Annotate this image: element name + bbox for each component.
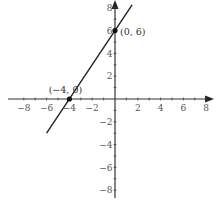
- x-tick-label: −8: [17, 103, 31, 113]
- point-marker: [112, 28, 117, 33]
- x-tick-label: 2: [135, 103, 141, 113]
- y-tick-label: 8: [107, 3, 113, 13]
- y-tick-label: −2: [99, 117, 112, 127]
- labels: (0, 6)(−4, 0): [49, 26, 146, 95]
- point-label: (0, 6): [120, 26, 146, 37]
- x-tick-label: −2: [86, 103, 99, 113]
- x-tick-label: 6: [181, 103, 187, 113]
- y-tick-label: −4: [99, 140, 113, 150]
- x-tick-label: −6: [40, 103, 54, 113]
- y-tick-label: 4: [107, 49, 113, 59]
- y-tick-label: −8: [99, 185, 113, 195]
- y-tick-label: 2: [107, 71, 113, 81]
- point-label: (−4, 0): [49, 84, 83, 95]
- coordinate-plane: −8−6−4−22468−8−6−4−22468 (0, 6)(−4, 0): [0, 0, 216, 216]
- y-tick-label: −6: [99, 163, 113, 173]
- point-marker: [67, 96, 72, 101]
- line-series-path: [47, 5, 133, 133]
- line-series: [47, 5, 133, 133]
- x-tick-label: 8: [203, 103, 209, 113]
- x-tick-label: −4: [63, 103, 77, 113]
- x-tick-label: 4: [158, 103, 164, 113]
